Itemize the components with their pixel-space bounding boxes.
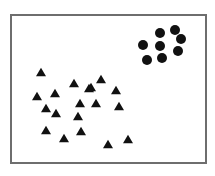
circle-marker [170, 25, 180, 35]
circle-marker [157, 53, 167, 63]
triangle-marker [51, 109, 61, 118]
triangle-marker [103, 140, 113, 149]
circle-marker [155, 28, 165, 38]
triangle-marker [73, 112, 83, 121]
circle-marker [176, 34, 186, 44]
triangle-marker [111, 86, 121, 95]
scatter-markers [0, 0, 215, 176]
triangle-marker [69, 79, 79, 88]
circle-marker [142, 55, 152, 65]
triangle-marker [41, 126, 51, 135]
triangle-marker [59, 134, 69, 143]
triangle-marker [123, 135, 133, 144]
circle-cluster [138, 25, 186, 65]
circle-marker [155, 41, 165, 51]
triangle-marker [76, 127, 86, 136]
triangle-cluster [32, 68, 133, 149]
triangle-marker [50, 89, 60, 98]
circle-marker [138, 40, 148, 50]
triangle-marker [36, 68, 46, 77]
triangle-marker [91, 99, 101, 108]
circle-marker [173, 46, 183, 56]
triangle-marker [114, 102, 124, 111]
triangle-marker [41, 104, 51, 113]
triangle-marker [75, 99, 85, 108]
triangle-marker [96, 75, 106, 84]
triangle-marker [32, 92, 42, 101]
